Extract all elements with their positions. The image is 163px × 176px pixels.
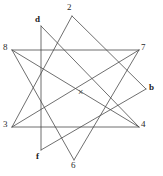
vertex-label-b: b (149, 83, 154, 92)
vertex-label-4: 4 (141, 120, 146, 129)
vertex-label-6: 6 (71, 161, 76, 170)
vertex-label-f: f (36, 152, 39, 161)
star-edge (12, 16, 72, 127)
star-polygon-figure: 27b46f38d × (0, 0, 163, 176)
vertex-label-8: 8 (3, 43, 8, 52)
vertex-label-7: 7 (141, 43, 146, 52)
center-cross-icon: × (78, 88, 83, 97)
star-edge (41, 89, 146, 150)
star-edge (12, 50, 74, 160)
star-edge (74, 50, 139, 160)
vertex-label-3: 3 (3, 120, 8, 129)
vertex-label-d: d (35, 15, 40, 24)
vertex-label-2: 2 (67, 3, 72, 12)
